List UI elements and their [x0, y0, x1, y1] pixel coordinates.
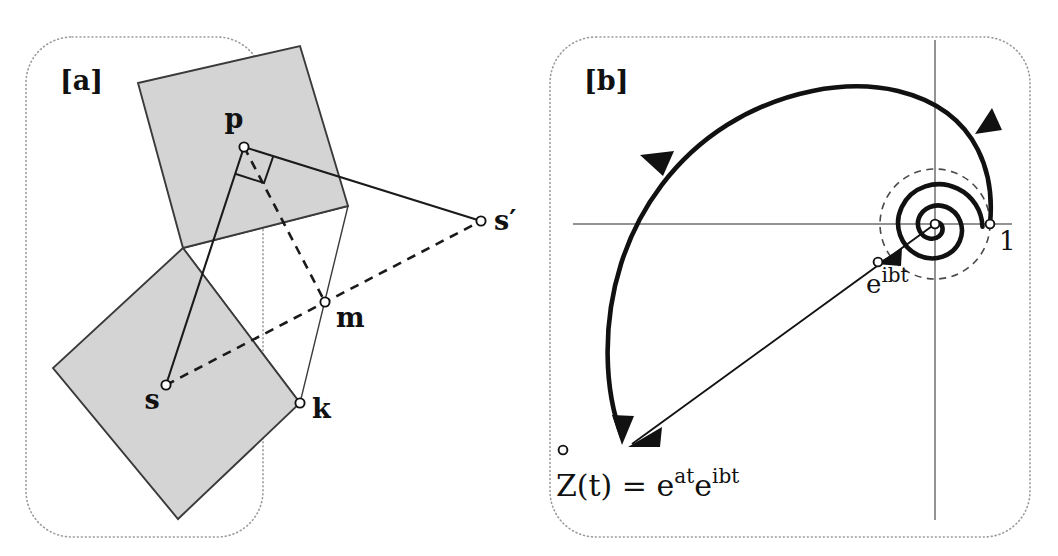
point-m	[320, 297, 329, 306]
label-m: m	[336, 302, 365, 333]
figure-canvas: [a] p s′ m s k	[0, 0, 1058, 556]
arrowhead-terminal	[612, 415, 634, 445]
formula-prefix: Z(t) = e	[556, 468, 674, 503]
arrowhead-ascending	[975, 108, 1002, 134]
arrowhead-descending	[640, 151, 674, 176]
spiral-outer-arc	[608, 86, 991, 437]
panel-a-content: [a] p s′ m s k	[53, 46, 516, 519]
panel-b-content: [b] 1 eibt Z(t) = eateibt	[556, 40, 1016, 520]
formula-exponent-ibt: ibt	[712, 464, 739, 488]
label-s-prime: s′	[494, 205, 516, 236]
point-s	[161, 380, 170, 389]
spiral-inner-turn	[898, 184, 982, 258]
figure-root: [a] p s′ m s k	[0, 0, 1058, 556]
panel-b-tag: [b]	[584, 65, 628, 96]
point-s-prime	[476, 216, 485, 225]
point-p	[239, 142, 248, 151]
label-eibt-exponent: ibt	[881, 263, 908, 287]
formula-exponent-at: at	[674, 464, 694, 488]
label-eibt-base: e	[866, 269, 881, 299]
label-z-of-t-formula: Z(t) = eateibt	[556, 464, 739, 503]
label-s: s	[144, 384, 159, 415]
point-one	[986, 220, 995, 229]
panel-a-tag: [a]	[60, 65, 103, 96]
formula-mid: e	[694, 468, 712, 503]
label-eibt: eibt	[866, 263, 909, 299]
label-k: k	[312, 393, 332, 424]
panel-b-frame	[550, 37, 1030, 537]
label-one: 1	[999, 226, 1016, 256]
point-z-of-t	[559, 446, 568, 455]
point-k	[295, 398, 304, 407]
label-p: p	[225, 103, 244, 134]
point-origin	[931, 220, 940, 229]
